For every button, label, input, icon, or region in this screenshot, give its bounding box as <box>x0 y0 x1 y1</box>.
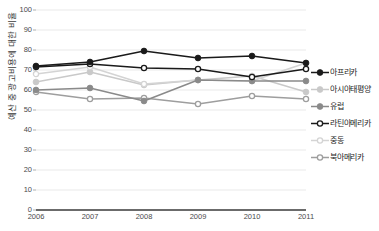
data-point <box>317 70 323 76</box>
x-tick-label: 2011 <box>298 212 314 221</box>
data-point <box>317 138 322 143</box>
legend-item-5[interactable]: 북아메리카 <box>310 149 379 166</box>
data-point <box>317 121 322 126</box>
data-point <box>195 101 200 106</box>
data-point <box>33 87 39 93</box>
data-point <box>317 104 323 110</box>
y-tick-label: 10 <box>8 186 32 194</box>
y-tick-label: 40 <box>8 126 32 134</box>
data-point <box>195 77 201 83</box>
legend-label: 아프리카 <box>330 68 357 78</box>
data-series-layer <box>36 10 306 210</box>
legend-label: 중동 <box>330 136 344 146</box>
chart-legend: 아프리카아시아태평양유럽라틴아메리카중동북아메리카 <box>310 64 379 166</box>
data-point <box>87 59 93 65</box>
legend-label: 라틴아메리카 <box>330 119 371 129</box>
legend-label: 북아메리카 <box>330 153 364 163</box>
x-tick-label: 2006 <box>28 212 45 221</box>
series-0 <box>33 48 309 69</box>
legend-marker-icon <box>310 132 330 149</box>
legend-label: 유럽 <box>330 102 344 112</box>
y-tick-label: 100 <box>8 6 32 14</box>
legend-item-0[interactable]: 아프리카 <box>310 64 379 81</box>
data-point <box>249 53 255 59</box>
data-point <box>195 66 200 71</box>
y-tick-label: 20 <box>8 166 32 174</box>
series-5 <box>33 89 308 106</box>
x-tick-label: 2010 <box>244 212 261 221</box>
data-point <box>141 48 147 54</box>
x-tick-label: 2009 <box>190 212 207 221</box>
y-tick-label: 90 <box>8 26 32 34</box>
data-point <box>303 96 308 101</box>
data-point <box>317 155 322 160</box>
legend-marker-icon <box>310 115 330 132</box>
series-2 <box>33 77 309 104</box>
series-line <box>36 51 306 66</box>
data-point <box>303 78 309 84</box>
x-tick-label: 2008 <box>136 212 153 221</box>
data-point <box>141 98 147 104</box>
series-line <box>36 92 306 104</box>
y-tick-label: 60 <box>8 86 32 94</box>
legend-marker-icon <box>310 81 330 98</box>
data-point <box>303 66 308 71</box>
legend-item-1[interactable]: 아시아태평양 <box>310 81 379 98</box>
y-tick-label: 70 <box>8 66 32 74</box>
data-point <box>87 85 93 91</box>
legend-item-4[interactable]: 중동 <box>310 132 379 149</box>
legend-item-2[interactable]: 유럽 <box>310 98 379 115</box>
data-point <box>87 96 92 101</box>
y-tick-label: 50 <box>8 106 32 114</box>
data-point <box>33 79 39 85</box>
legend-marker-icon <box>310 149 330 166</box>
data-point <box>303 60 309 66</box>
series-3 <box>33 61 308 79</box>
line-chart: 예산 중 광고비용에 대한 비율 0102030405060708090100 … <box>0 0 379 231</box>
y-tick-label: 80 <box>8 46 32 54</box>
plot-area <box>36 10 306 210</box>
data-point <box>33 63 39 69</box>
legend-item-3[interactable]: 라틴아메리카 <box>310 115 379 132</box>
y-tick-label: 30 <box>8 146 32 154</box>
legend-label: 아시아태평양 <box>330 85 371 95</box>
data-point <box>141 81 146 86</box>
x-axis-tick-labels: 200620072008200920102011 <box>36 212 306 226</box>
data-point <box>195 55 201 61</box>
data-point <box>33 71 38 76</box>
x-tick-label: 2007 <box>82 212 99 221</box>
data-point <box>317 87 323 93</box>
data-point <box>249 93 254 98</box>
data-point <box>249 74 254 79</box>
y-axis-tick-labels: 0102030405060708090100 <box>8 0 32 231</box>
legend-marker-icon <box>310 98 330 115</box>
legend-marker-icon <box>310 64 330 81</box>
data-point <box>303 89 309 95</box>
data-point <box>141 65 146 70</box>
